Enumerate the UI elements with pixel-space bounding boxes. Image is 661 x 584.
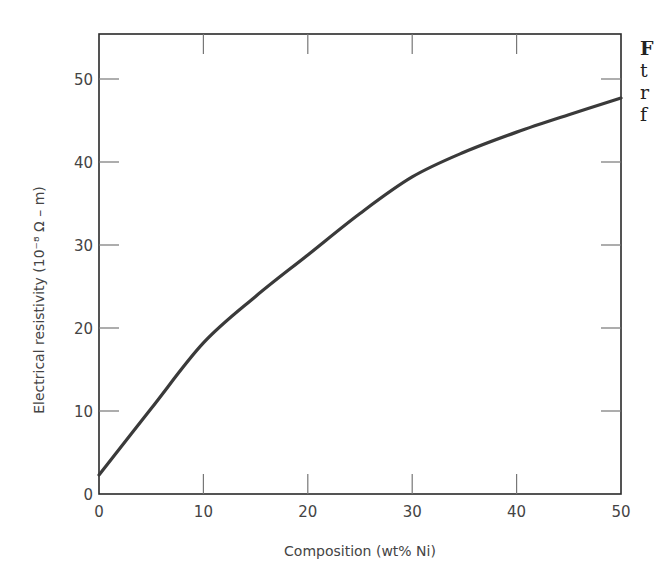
caption-letter: F: [640, 37, 654, 59]
caption-letter: t: [640, 59, 654, 81]
plot-frame: [99, 34, 621, 494]
caption-letter: f: [640, 103, 654, 125]
x-tick-label: 40: [507, 503, 526, 521]
y-tick-label: 30: [74, 237, 93, 255]
y-tick-label: 0: [83, 486, 93, 504]
y-tick-label: 50: [74, 71, 93, 89]
x-tick-label: 50: [611, 503, 630, 521]
y-tick-label: 20: [74, 320, 93, 338]
y-tick-label: 40: [74, 154, 93, 172]
figure-caption-fragment: F t r f: [640, 37, 654, 125]
y-axis-label: Electrical resistivity (10⁻⁸ Ω – m): [31, 186, 47, 414]
x-tick-label: 30: [403, 503, 422, 521]
plot-border: [99, 34, 621, 494]
x-axis-ticks: 01020304050: [94, 34, 630, 521]
caption-letter: r: [640, 81, 654, 103]
x-tick-label: 0: [94, 503, 104, 521]
resistivity-curve: [99, 98, 621, 475]
resistivity-chart: 01020304050 01020304050 Composition (wt%…: [0, 0, 661, 584]
x-axis-label: Composition (wt% Ni): [284, 543, 436, 559]
y-tick-label: 10: [74, 403, 93, 421]
y-axis-ticks: 01020304050: [74, 71, 621, 504]
x-tick-label: 20: [298, 503, 317, 521]
x-tick-label: 10: [194, 503, 213, 521]
